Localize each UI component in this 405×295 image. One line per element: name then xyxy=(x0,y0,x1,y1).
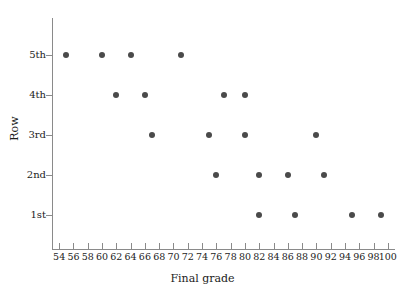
x-tick-mark xyxy=(345,243,346,249)
x-tick-label: 80 xyxy=(239,251,251,263)
data-point xyxy=(256,172,262,178)
y-tick-label: 5th xyxy=(29,49,46,61)
y-tick-mark xyxy=(46,55,52,56)
data-point xyxy=(349,212,355,218)
x-tick-label: 62 xyxy=(110,251,122,263)
x-tick-label: 100 xyxy=(379,251,397,263)
x-tick-label: 96 xyxy=(353,251,365,263)
y-tick-label: 2nd xyxy=(27,169,46,181)
x-tick-label: 82 xyxy=(253,251,265,263)
x-tick-mark xyxy=(374,243,375,249)
x-tick-label: 58 xyxy=(82,251,94,263)
data-point xyxy=(292,212,298,218)
data-point xyxy=(206,132,212,138)
x-tick-label: 72 xyxy=(182,251,194,263)
data-point xyxy=(321,172,327,178)
y-tick-label: 1st xyxy=(30,209,46,221)
x-tick-label: 92 xyxy=(325,251,337,263)
x-tick-mark xyxy=(188,243,189,249)
x-tick-mark xyxy=(216,243,217,249)
data-point xyxy=(242,132,248,138)
y-axis-title: Row xyxy=(8,99,21,159)
data-point xyxy=(113,92,119,98)
x-tick-mark xyxy=(316,243,317,249)
x-tick-mark xyxy=(274,243,275,249)
scatter-plot: 5456586062646668707274767880828486889092… xyxy=(0,0,405,295)
data-point xyxy=(128,52,134,58)
x-tick-mark xyxy=(231,243,232,249)
x-axis-line xyxy=(52,249,395,250)
data-point xyxy=(99,52,105,58)
x-tick-mark xyxy=(388,243,389,249)
x-tick-label: 70 xyxy=(167,251,179,263)
x-tick-mark xyxy=(288,243,289,249)
x-tick-mark xyxy=(131,243,132,249)
x-tick-mark xyxy=(102,243,103,249)
x-axis-title: Final grade xyxy=(0,272,405,285)
x-tick-label: 64 xyxy=(125,251,137,263)
x-tick-mark xyxy=(173,243,174,249)
data-point xyxy=(285,172,291,178)
data-point xyxy=(213,172,219,178)
y-tick-mark xyxy=(46,175,52,176)
x-tick-mark xyxy=(116,243,117,249)
data-point xyxy=(63,52,69,58)
x-tick-mark xyxy=(145,243,146,249)
y-axis-line xyxy=(52,18,53,249)
x-tick-label: 54 xyxy=(53,251,65,263)
x-tick-mark xyxy=(259,243,260,249)
x-tick-label: 94 xyxy=(339,251,351,263)
x-tick-mark xyxy=(159,243,160,249)
data-point xyxy=(242,92,248,98)
data-point xyxy=(149,132,155,138)
x-tick-label: 88 xyxy=(296,251,308,263)
x-tick-mark xyxy=(88,243,89,249)
data-point xyxy=(313,132,319,138)
x-tick-label: 86 xyxy=(282,251,294,263)
x-tick-mark xyxy=(73,243,74,249)
y-tick-mark xyxy=(46,95,52,96)
x-tick-label: 60 xyxy=(96,251,108,263)
data-point xyxy=(142,92,148,98)
x-tick-mark xyxy=(202,243,203,249)
data-point xyxy=(256,212,262,218)
data-point xyxy=(178,52,184,58)
x-tick-label: 78 xyxy=(225,251,237,263)
x-tick-label: 74 xyxy=(196,251,208,263)
x-tick-mark xyxy=(59,243,60,249)
y-tick-mark xyxy=(46,135,52,136)
y-tick-mark xyxy=(46,215,52,216)
y-tick-label: 3rd xyxy=(28,129,46,141)
data-point xyxy=(378,212,384,218)
y-tick-label: 4th xyxy=(29,89,46,101)
x-tick-mark xyxy=(302,243,303,249)
x-tick-label: 84 xyxy=(267,251,279,263)
x-tick-label: 56 xyxy=(67,251,79,263)
x-tick-label: 68 xyxy=(153,251,165,263)
x-tick-label: 90 xyxy=(310,251,322,263)
x-tick-label: 76 xyxy=(210,251,222,263)
x-tick-mark xyxy=(331,243,332,249)
x-tick-label: 66 xyxy=(139,251,151,263)
x-tick-mark xyxy=(245,243,246,249)
x-tick-mark xyxy=(359,243,360,249)
data-point xyxy=(221,92,227,98)
